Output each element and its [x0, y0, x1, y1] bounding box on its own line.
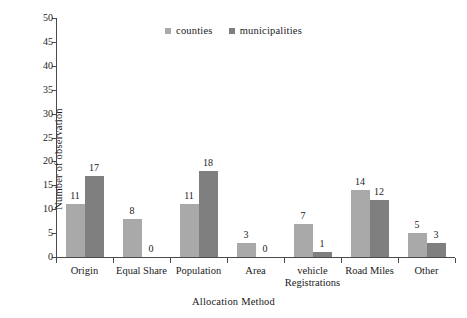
x-axis-title: Allocation Method: [0, 296, 467, 307]
bar-value-label: 12: [374, 187, 384, 197]
x-axis-category-label-line: Population: [176, 265, 222, 277]
y-axis-tick-label: 25: [43, 133, 53, 143]
x-axis-category-label: vehicleRegistrations: [285, 265, 340, 289]
x-axis-category-label-line: Origin: [71, 265, 98, 277]
bar-value-label: 5: [415, 220, 420, 230]
x-axis-category-label-line: Equal Share: [116, 265, 167, 277]
bar-value-label: 3: [244, 230, 249, 240]
bar-counties-origin: [66, 204, 85, 257]
bar-chart-figure: counties municipalities 0510152025303540…: [0, 0, 467, 318]
bar-municipalities-other: [427, 243, 446, 257]
y-axis-tick-label: 20: [43, 156, 53, 166]
x-axis-tick: [398, 258, 399, 263]
bar-value-label: 0: [263, 244, 268, 254]
x-axis-category-label-line: Registrations: [285, 277, 340, 289]
x-axis-category-label: Population: [176, 265, 222, 277]
bar-municipalities-population: [199, 171, 218, 257]
y-axis-tick-label: 10: [43, 204, 53, 214]
x-axis-category-label-line: Area: [245, 265, 265, 277]
y-axis-tick-label: 30: [43, 109, 53, 119]
x-axis-tick: [227, 258, 228, 263]
x-axis-tick: [455, 258, 456, 263]
x-axis-category-label: Area: [245, 265, 265, 277]
bar-municipalities-road-miles: [370, 200, 389, 257]
bar-value-label: 11: [70, 191, 80, 201]
bar-municipalities-vehicle-registrations: [313, 252, 332, 257]
bar-value-label: 18: [203, 158, 213, 168]
bar-value-label: 8: [130, 206, 135, 216]
x-axis-category-label: Other: [415, 265, 439, 277]
plot-area: 05101520253035404550 1117801118307114125…: [56, 18, 455, 257]
bar-value-label: 14: [355, 177, 365, 187]
bar-counties-area: [237, 243, 256, 257]
bar-counties-vehicle-registrations: [294, 224, 313, 257]
bar-value-label: 0: [149, 244, 154, 254]
x-axis-category-label: Road Miles: [345, 265, 394, 277]
y-axis-tick-label: 45: [43, 37, 53, 47]
y-axis-tick-label: 5: [48, 228, 53, 238]
bar-value-label: 3: [434, 230, 439, 240]
bar-value-label: 11: [184, 191, 194, 201]
y-axis-tick-label: 50: [43, 13, 53, 23]
bar-value-label: 7: [301, 211, 306, 221]
y-axis-tick-label: 15: [43, 180, 53, 190]
x-axis-category-label: Origin: [71, 265, 98, 277]
x-axis-line: [56, 257, 455, 258]
x-axis-tick: [113, 258, 114, 263]
x-axis-category-label: Equal Share: [116, 265, 167, 277]
y-axis-tick-label: 35: [43, 85, 53, 95]
y-axis-tick-label: 40: [43, 61, 53, 71]
x-axis-category-label-line: Road Miles: [345, 265, 394, 277]
x-axis-tick: [341, 258, 342, 263]
bar-value-label: 1: [320, 239, 325, 249]
bar-counties-road-miles: [351, 190, 370, 257]
x-axis-tick: [56, 258, 57, 263]
x-axis-category-label-line: vehicle: [285, 265, 340, 277]
bar-counties-equal-share: [123, 219, 142, 257]
x-axis-tick: [170, 258, 171, 263]
y-axis-tick-label: 0: [48, 252, 53, 262]
bar-municipalities-origin: [85, 176, 104, 257]
x-axis-tick: [284, 258, 285, 263]
x-axis-category-label-line: Other: [415, 265, 439, 277]
y-axis-title: Number of observation: [53, 108, 64, 210]
bar-value-label: 17: [89, 163, 99, 173]
bar-counties-population: [180, 204, 199, 257]
bar-counties-other: [408, 233, 427, 257]
